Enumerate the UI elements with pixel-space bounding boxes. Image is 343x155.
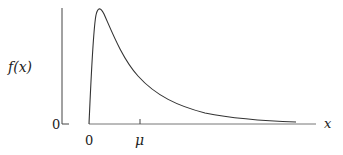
x-axis-mu-label: μ [135, 132, 144, 148]
density-curve [89, 9, 296, 124]
density-chart: f(x) 0 0 μ x [0, 0, 343, 155]
x-axis-zero-label: 0 [85, 133, 93, 148]
y-axis-zero-label: 0 [52, 117, 60, 132]
y-axis-label: f(x) [7, 59, 32, 75]
x-axis-label: x [324, 116, 332, 131]
